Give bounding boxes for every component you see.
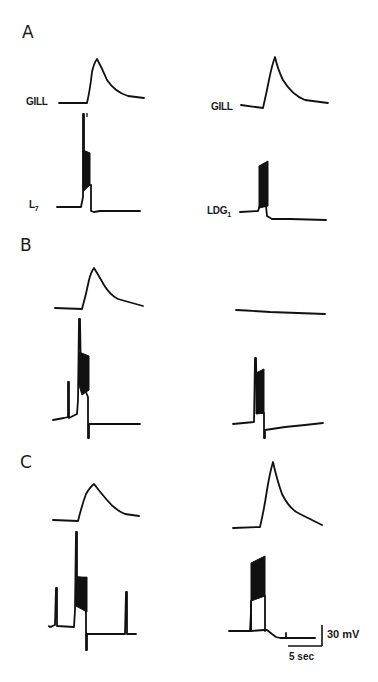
trace-c-right-lower xyxy=(229,603,315,638)
trace-c-right-step xyxy=(251,596,265,631)
trace-a-left-gill xyxy=(59,59,144,103)
burst-c-right-lower xyxy=(251,556,265,601)
burst-b-right-lower xyxy=(256,369,264,414)
burst-a-left-l7 xyxy=(83,150,90,188)
trace-c-right-upper xyxy=(233,462,322,528)
trace-a-right-gill xyxy=(241,57,328,108)
traces-svg xyxy=(0,0,378,682)
trace-c-left-lower xyxy=(50,532,136,650)
trace-b-right-upper xyxy=(236,310,325,314)
burst-a-right-ldg1 xyxy=(259,161,268,208)
burst-b-left-lower xyxy=(79,352,89,395)
trace-a-left-l7 xyxy=(57,114,140,212)
trace-b-right-lower xyxy=(233,358,323,438)
burst-c-left-lower xyxy=(76,577,87,612)
trace-c-left-upper xyxy=(53,484,139,521)
electrophysiology-figure: A B C GILL L7 GILL LDG1 30 mV 5 sec xyxy=(0,0,378,682)
trace-b-left-lower xyxy=(53,319,140,438)
trace-b-left-upper xyxy=(55,268,143,309)
trace-a-right-ldg1 xyxy=(240,205,326,220)
